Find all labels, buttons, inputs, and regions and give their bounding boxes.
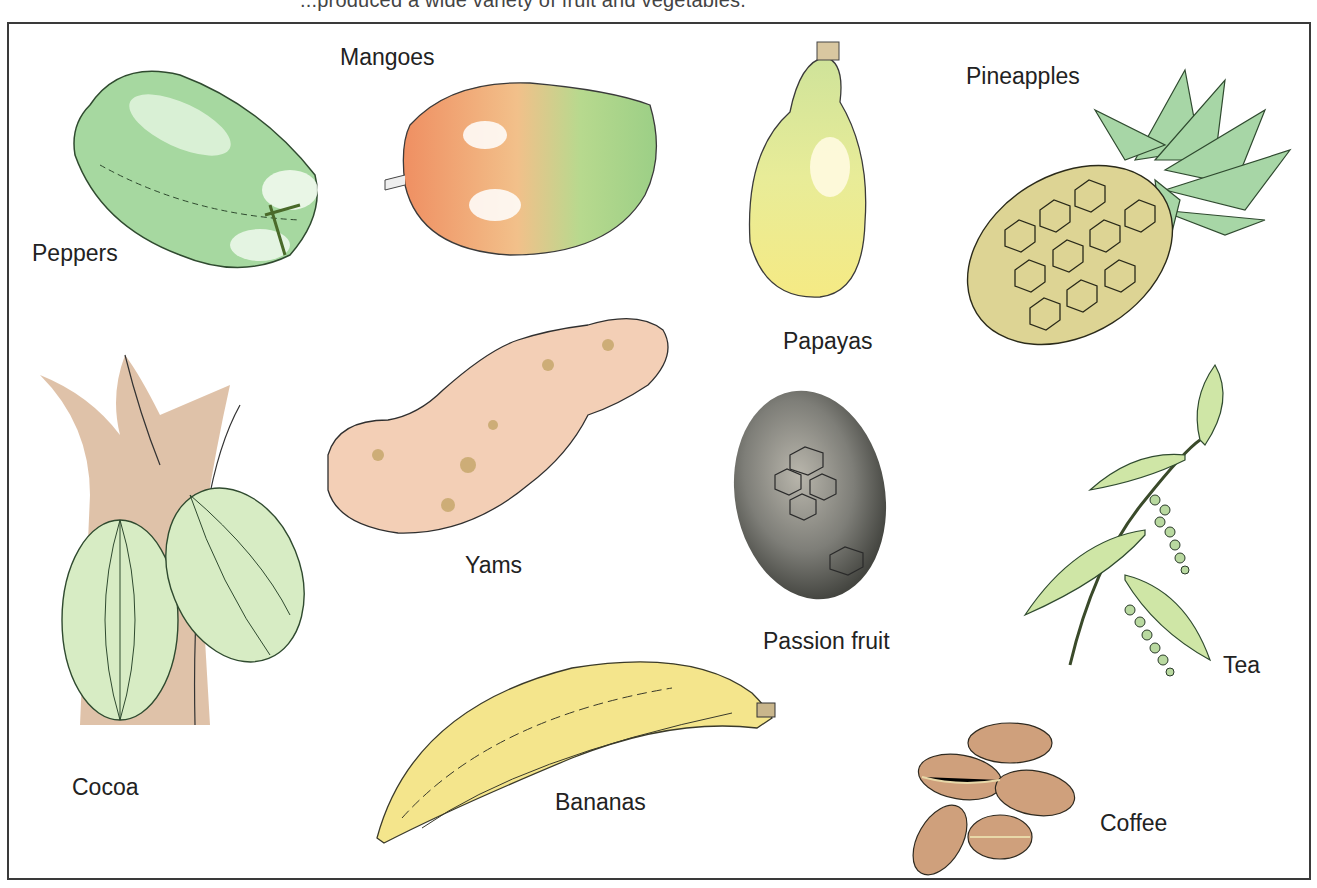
label-pineapples: Pineapples [966,65,1080,88]
passion-fruit-illustration [730,385,895,605]
label-bananas: Bananas [555,791,646,814]
label-yams: Yams [465,554,522,577]
coffee-illustration [900,715,1095,875]
label-coffee: Coffee [1100,812,1167,835]
label-peppers: Peppers [32,242,118,265]
cocoa-illustration [30,355,310,740]
yam-illustration [318,305,688,540]
pineapple-illustration [965,50,1300,365]
papaya-illustration [745,42,875,304]
label-papayas: Papayas [783,330,873,353]
label-tea: Tea [1223,654,1260,677]
mango-illustration [380,75,665,260]
label-cocoa: Cocoa [72,776,138,799]
tea-illustration [1015,360,1225,695]
label-mangoes: Mangoes [340,46,435,69]
page-caption: ...produced a wide variety of fruit and … [300,0,746,12]
